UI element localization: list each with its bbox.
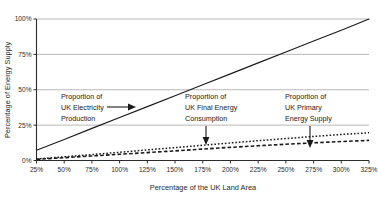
annotation-primary-energy-line-1: Proportion of [285,92,326,101]
y-tick-label-25%: 25% [18,122,31,129]
chart-figure: 0%25%50%75%100% 25%50%75%100%125%150%175… [0,0,378,197]
annotation-electricity-line-1: Proportion of [61,92,102,101]
annotation-primary-energy-line-2: UK Primary [285,103,322,112]
y-tick-label-0%: 0% [22,157,32,164]
x-tick-label-225%: 225% [250,166,267,173]
x-tick-label-150%: 150% [167,166,184,173]
x-tick-label-250%: 250% [277,166,294,173]
annotation-primary-energy-line-3: Energy Supply [285,114,332,123]
y-tick-label-100%: 100% [15,15,32,22]
y-tick-label-50%: 50% [18,86,31,93]
x-axis-title: Percentage of the UK Land Area [150,183,257,192]
annotation-final-energy-line-3: Consumption [185,114,227,123]
x-tick-label-125%: 125% [139,166,156,173]
x-tick-label-50%: 50% [58,166,71,173]
x-tick-label-300%: 300% [333,166,350,173]
x-tick-label-175%: 175% [194,166,211,173]
x-tick-label-275%: 275% [305,166,322,173]
x-tick-label-25%: 25% [30,166,43,173]
annotation-final-energy-line-1: Proportion of [185,92,226,101]
y-tick-label-75%: 75% [18,51,31,58]
x-tick-label-200%: 200% [222,166,239,173]
annotation-electricity-line-2: UK Electricity [61,103,104,112]
energy-supply-line-chart: 0%25%50%75%100% 25%50%75%100%125%150%175… [0,0,378,197]
x-tick-label-75%: 75% [85,166,98,173]
y-axis-title: Percentage of Energy Supply [3,42,12,138]
x-tick-label-325%: 325% [361,166,378,173]
annotation-final-energy-line-2: UK Final Energy [185,103,238,112]
annotation-electricity-line-3: Production [61,114,95,123]
x-tick-label-100%: 100% [111,166,128,173]
